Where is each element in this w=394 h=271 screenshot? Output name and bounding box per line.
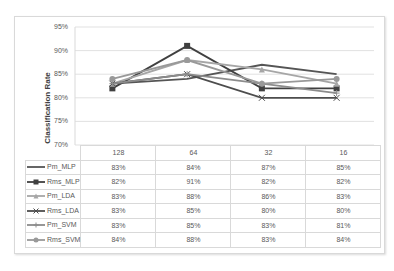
table-cell: 82% <box>231 175 306 190</box>
legend-label: Rms_MLP <box>47 178 80 185</box>
series-rms-mlp <box>109 43 339 91</box>
table-cell: 85% <box>156 218 231 233</box>
y-tick-label: 80% <box>42 94 68 101</box>
x-category-label: 16 <box>306 146 381 161</box>
legend-entry: Rms_MLP <box>26 175 81 190</box>
legend-label: Rms_LDA <box>47 207 79 214</box>
table-cell: 84% <box>306 233 381 248</box>
y-tick-label: 90% <box>42 47 68 54</box>
x-category-label: 32 <box>231 146 306 161</box>
table-cell: 88% <box>156 233 231 248</box>
table-cell: 83% <box>231 218 306 233</box>
table-row: Pm_MLP83%84%87%85% <box>26 160 381 175</box>
legend-key-icon <box>26 163 46 171</box>
y-tick-label: 75% <box>42 117 68 124</box>
legend-key-icon <box>26 207 46 215</box>
table-cell: 81% <box>306 218 381 233</box>
table-row: Pm_LDA83%88%86%83% <box>26 189 381 204</box>
legend-entry: Pm_SVM <box>26 218 81 233</box>
series-rms-lda <box>109 71 339 101</box>
table-cell: 83% <box>81 218 156 233</box>
legend-entry: Rms_SVM <box>26 233 81 248</box>
table-cell: 88% <box>156 189 231 204</box>
series-pm-svm <box>109 71 339 96</box>
legend-label: Pm_MLP <box>47 163 76 170</box>
table-cell: 82% <box>81 175 156 190</box>
table-row: Rms_MLP82%91%82%82% <box>26 175 381 190</box>
legend-entry: Pm_LDA <box>26 189 81 204</box>
table-cell: 85% <box>156 204 231 219</box>
legend-entry: Pm_MLP <box>26 160 81 175</box>
data-table: 128643216Pm_MLP83%84%87%85%Rms_MLP82%91%… <box>25 145 381 248</box>
table-cell: 83% <box>306 189 381 204</box>
legend-key-icon <box>26 221 46 229</box>
table-cell: 84% <box>156 160 231 175</box>
table-row: Rms_LDA83%85%80%80% <box>26 204 381 219</box>
table-row: Pm_SVM83%85%83%81% <box>26 218 381 233</box>
x-category-label: 128 <box>81 146 156 161</box>
table-cell: 85% <box>306 160 381 175</box>
table-cell: 83% <box>81 204 156 219</box>
table-header-row: 128643216 <box>26 146 381 161</box>
table-cell: 83% <box>231 233 306 248</box>
legend-key-icon <box>26 178 46 186</box>
legend-key-icon <box>26 192 46 200</box>
table-cell: 83% <box>81 160 156 175</box>
legend-label: Pm_LDA <box>47 192 75 199</box>
table-cell: 86% <box>231 189 306 204</box>
y-tick-label: 95% <box>42 23 68 30</box>
legend-label: Rms_SVM <box>47 236 80 243</box>
table-cell: 83% <box>81 189 156 204</box>
y-tick-label: 85% <box>42 70 68 77</box>
table-cell: 91% <box>156 175 231 190</box>
x-category-label: 64 <box>156 146 231 161</box>
legend-entry: Rms_LDA <box>26 204 81 219</box>
table-cell: 80% <box>306 204 381 219</box>
table-cell: 87% <box>231 160 306 175</box>
legend-key-icon <box>26 236 46 244</box>
legend-label: Pm_SVM <box>47 221 77 228</box>
table-cell: 80% <box>231 204 306 219</box>
table-cell: 84% <box>81 233 156 248</box>
table-row: Rms_SVM84%88%83%84% <box>26 233 381 248</box>
table-cell: 82% <box>306 175 381 190</box>
